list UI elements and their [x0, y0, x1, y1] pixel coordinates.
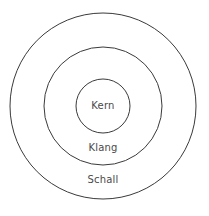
concentric-circles-diagram: Schall Klang Kern [0, 0, 209, 216]
label-kern: Kern [91, 100, 114, 111]
label-schall: Schall [87, 174, 118, 185]
label-klang: Klang [88, 142, 117, 153]
diagram-canvas: Schall Klang Kern [0, 0, 209, 216]
